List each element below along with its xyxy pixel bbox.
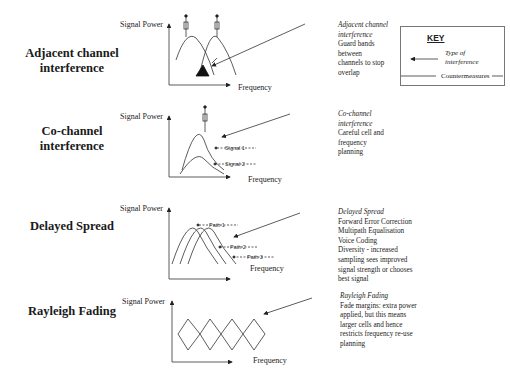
row-title-adjacent: Adjacent channel interference (22, 46, 122, 76)
adjacent-curve-1 (176, 36, 214, 75)
note-line: planning (340, 340, 430, 350)
key-line-meaning: Countermeasures (439, 72, 492, 80)
pointer-cochannel (222, 114, 290, 137)
note-delayed: Delayed Spread Forward Error Correction … (338, 208, 428, 285)
pointer-adjacent (212, 24, 305, 66)
signal-1-label: Signal 1 (225, 145, 245, 151)
signal-1-curve (182, 134, 224, 170)
y-axis-label: Signal Power (120, 20, 163, 29)
x-axis-label: Frequency (253, 356, 287, 365)
row-title-delayed: Delayed Spread (22, 219, 122, 234)
note-line: Multipath Equalisation (338, 227, 428, 237)
note-line: signal strength or chooses (338, 266, 428, 276)
title-line: Adjacent channel (22, 46, 122, 61)
key-arrow-meaning: Type of interference (445, 49, 495, 66)
note-rayleigh: Rayleigh Fading Fade margins: extra powe… (340, 292, 430, 350)
note-line: sampling sees improved (338, 256, 428, 266)
antenna-icon-2 (215, 15, 219, 37)
note-line: applied, but this means (340, 311, 430, 321)
x-axis-label: Frequency (250, 264, 284, 273)
y-axis-label: Signal Power (122, 297, 165, 306)
pointer-rayleigh (264, 298, 312, 314)
signal-2-label: Signal 2 (225, 161, 245, 167)
title-line: interference (22, 61, 122, 76)
note-title: Rayleigh Fading (340, 292, 430, 302)
y-axis-label: Signal Power (120, 204, 163, 213)
path-3-curve (188, 228, 236, 264)
antenna-icon-1 (184, 15, 188, 37)
title-line: Co-channel (22, 124, 122, 139)
title-line: Rayleigh Fading (22, 304, 122, 319)
row-title-rayleigh: Rayleigh Fading (22, 304, 122, 319)
note-line: restricts frequency re-use (340, 330, 430, 340)
note-title: Delayed Spread (338, 208, 428, 218)
note-line: channels to stop (338, 59, 402, 69)
fading-lower (178, 334, 265, 350)
note-line: planning (338, 148, 398, 158)
note-line: Diversity - increased (338, 246, 428, 256)
antenna-icon-3 (203, 106, 207, 132)
fading-upper (178, 319, 265, 334)
note-adjacent: Adjacent channel interference Guard band… (338, 21, 402, 79)
path-1-label: Path 1 (209, 222, 225, 228)
note-line: Forward Error Correction (338, 218, 428, 228)
key-title: KEY (427, 33, 444, 43)
row-title-cochannel: Co-channel interference (22, 124, 122, 154)
title-line: Delayed Spread (22, 219, 122, 234)
note-line: Fade margins: extra power (340, 302, 430, 312)
y-axis-label: Signal Power (120, 112, 163, 121)
note-title: Adjacent channel interference (338, 21, 402, 40)
title-line: interference (22, 139, 122, 154)
overlap-region (196, 65, 209, 76)
note-title: Co-channel interference (338, 110, 398, 129)
note-line: larger cells and hence (340, 321, 430, 331)
note-line: Careful cell and (338, 129, 398, 139)
x-axis-label: Frequency (238, 83, 272, 92)
note-line: best signal (338, 275, 428, 285)
note-line: frequency (338, 139, 398, 149)
note-line: between (338, 50, 402, 60)
path-3-label: Path 3 (247, 254, 263, 260)
note-line: Guard bands (338, 40, 402, 50)
note-line: overlap (338, 69, 402, 79)
note-cochannel: Co-channel interference Careful cell and… (338, 110, 398, 158)
note-line: Voice Coding (338, 237, 428, 247)
key-legend: KEY Type of interference Countermeasures (400, 26, 505, 86)
x-axis-label: Frequency (248, 175, 282, 184)
pointer-delayed (234, 213, 300, 237)
signal-2-curve (180, 157, 224, 174)
path-2-label: Path 2 (230, 244, 246, 250)
